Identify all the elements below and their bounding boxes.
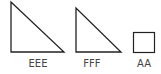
triangle-fff	[76, 8, 121, 52]
triangle-eee	[11, 2, 64, 52]
square-aa	[134, 33, 155, 53]
label-eee: EEE	[29, 59, 48, 69]
label-fff: FFF	[83, 59, 100, 69]
label-aa: AA	[137, 59, 151, 69]
